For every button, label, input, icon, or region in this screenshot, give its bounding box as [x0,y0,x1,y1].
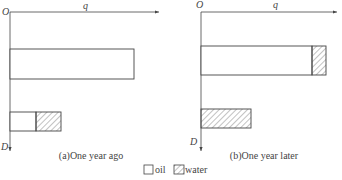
bar-water [201,109,251,128]
y-axis-label: D [0,141,9,152]
origin-label: O [2,6,9,17]
bar-oil [10,112,36,131]
legend-water-label: water [185,164,208,175]
panel-b: O q D (b)One year later [189,0,337,162]
legend-water-swatch [174,165,184,174]
legend-oil-label: oil [155,164,166,175]
caption-b: (b)One year later [230,150,299,162]
bar-oil [201,46,312,75]
legend-oil-swatch [144,165,153,174]
origin-label: O [196,0,203,10]
bar-water [36,112,61,131]
x-axis-label: q [83,0,88,11]
caption-a: (a)One year ago [59,150,123,162]
legend: oil water [144,164,208,175]
x-axis-label: q [273,0,278,10]
y-axis-label: D [189,136,198,147]
oil-water-diagram: O q D (a)One year ago O q D (b)One year … [0,0,342,180]
panel-a: O q D (a)One year ago [0,0,159,162]
bar-oil [10,49,134,79]
bar-water [312,46,326,75]
